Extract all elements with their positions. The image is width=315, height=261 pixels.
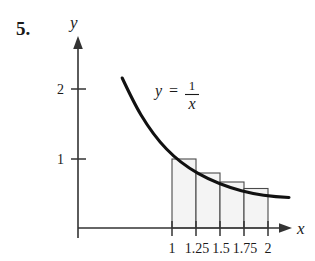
plot-canvas: y x 1 1.25 1.5 1.75 2 1 2 y = 1 x	[0, 0, 315, 261]
equation-equals: =	[168, 82, 179, 99]
x-axis-label: x	[296, 219, 305, 238]
equation-numerator: 1	[189, 78, 196, 93]
y-axis-label: y	[68, 13, 78, 32]
equation-lhs: y	[153, 82, 163, 100]
x-tick-label: 1.5	[212, 241, 230, 256]
y-tick-label: 2	[57, 82, 64, 97]
y-tick-label: 1	[57, 152, 64, 167]
x-tick-label: 1	[169, 241, 176, 256]
equation-annotation: y = 1 x	[153, 78, 199, 112]
riemann-sum-figure: 5. y x 1	[0, 0, 315, 261]
x-tick-label: 1.75	[233, 241, 258, 256]
x-tick-label: 1.25	[185, 241, 210, 256]
y-axis	[71, 36, 86, 238]
x-tick-label: 2	[265, 241, 272, 256]
equation-denominator: x	[187, 95, 195, 112]
